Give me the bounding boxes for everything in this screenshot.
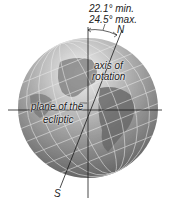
tilt-max-label: 24.5° max. <box>89 14 137 25</box>
ecliptic-label-line1: plane of the <box>31 101 83 112</box>
north-label: N <box>117 24 124 35</box>
south-label: S <box>54 188 61 199</box>
tilt-angle-arc <box>88 30 117 35</box>
tilt-min-label: 22.1° min. <box>89 3 134 14</box>
globe-illustration <box>0 0 171 205</box>
axis-label-line1: axis of <box>94 60 123 71</box>
axial-tilt-diagram: 22.1° min. 24.5° max. N axis of rotation… <box>0 0 171 205</box>
ecliptic-label-line2: ecliptic <box>43 114 74 125</box>
axis-label-line2: rotation <box>92 71 125 82</box>
